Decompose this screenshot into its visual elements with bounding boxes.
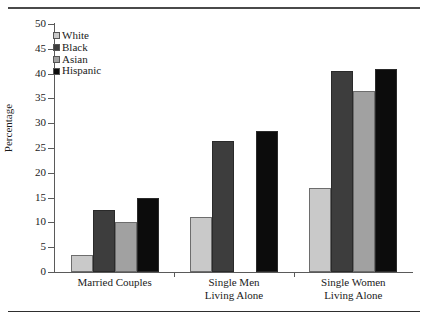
bar-white-group-3 bbox=[309, 188, 331, 272]
bar-white-group-1 bbox=[71, 255, 93, 272]
y-tick-label: 10 bbox=[2, 216, 46, 227]
bar-hispanic-group-2 bbox=[256, 131, 278, 272]
legend-item-hispanic[interactable]: Hispanic bbox=[53, 65, 101, 77]
y-tick-mark bbox=[48, 123, 54, 124]
x-group-label-2: Single Men Living Alone bbox=[174, 276, 294, 302]
bar-black-group-2 bbox=[212, 141, 234, 272]
y-tick-label: 35 bbox=[2, 92, 46, 103]
y-tick-label: 50 bbox=[2, 18, 46, 29]
y-tick-label: 25 bbox=[2, 142, 46, 153]
x-axis-line bbox=[54, 272, 413, 273]
bottom-rule bbox=[8, 311, 420, 312]
bar-hispanic-group-1 bbox=[137, 198, 159, 272]
bar-chart-figure: Percentage 05101520253035404550 Married … bbox=[0, 10, 428, 310]
y-tick-mark bbox=[48, 173, 54, 174]
y-tick-label: 15 bbox=[2, 192, 46, 203]
bar-black-group-3 bbox=[331, 71, 353, 272]
y-tick-mark bbox=[48, 272, 54, 273]
y-tick-label: 20 bbox=[2, 167, 46, 178]
bar-white-group-2 bbox=[190, 217, 212, 272]
y-tick-mark bbox=[48, 148, 54, 149]
x-group-label-3: Single Women Living Alone bbox=[293, 276, 413, 302]
y-tick-mark bbox=[48, 198, 54, 199]
legend-label: Black bbox=[62, 42, 88, 54]
legend-swatch-icon-black bbox=[53, 44, 60, 51]
y-tick-mark bbox=[48, 24, 54, 25]
legend-label: Hispanic bbox=[62, 65, 101, 77]
bar-asian-group-3 bbox=[353, 91, 375, 272]
y-tick-label: 0 bbox=[2, 266, 46, 277]
y-tick-label: 5 bbox=[2, 241, 46, 252]
y-tick-label: 40 bbox=[2, 68, 46, 79]
y-tick-label: 30 bbox=[2, 117, 46, 128]
legend-swatch-icon-white bbox=[53, 32, 60, 39]
y-tick-mark bbox=[48, 222, 54, 223]
y-tick-mark bbox=[48, 98, 54, 99]
bar-black-group-1 bbox=[93, 210, 115, 272]
legend-swatch-icon-hispanic bbox=[53, 68, 60, 75]
chart-legend: WhiteBlackAsianHispanic bbox=[53, 30, 101, 77]
x-group-label-1: Married Couples bbox=[55, 276, 175, 289]
top-rule bbox=[8, 7, 420, 9]
y-tick-mark bbox=[48, 247, 54, 248]
plot-area bbox=[55, 24, 413, 272]
bar-hispanic-group-3 bbox=[375, 69, 397, 272]
legend-swatch-icon-asian bbox=[53, 56, 60, 63]
y-tick-label: 45 bbox=[2, 43, 46, 54]
legend-item-black[interactable]: Black bbox=[53, 42, 101, 54]
bar-asian-group-1 bbox=[115, 222, 137, 272]
